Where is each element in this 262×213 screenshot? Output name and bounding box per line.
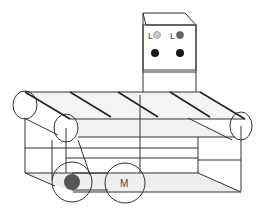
control-box: L L xyxy=(143,13,196,95)
lamp-label-2: L xyxy=(170,31,175,41)
motor-label: M xyxy=(120,178,128,189)
roller-left-back xyxy=(13,91,37,119)
button-icon-2[interactable] xyxy=(176,49,184,57)
lamp-icon-1 xyxy=(154,32,161,39)
conveyor-belt xyxy=(24,92,245,140)
conveyor-diagram: L L xyxy=(0,0,262,213)
lamp-label-1: L xyxy=(148,31,153,41)
drive-pulley-hub-icon xyxy=(64,174,80,190)
lamp-icon-2 xyxy=(177,32,184,39)
button-icon-1[interactable] xyxy=(151,49,159,57)
roller-right xyxy=(230,112,252,191)
